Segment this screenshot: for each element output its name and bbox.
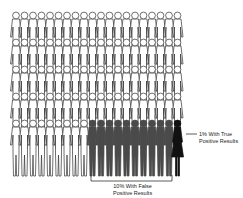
- person-icon: [147, 120, 158, 176]
- false-positive-label: 10% With False Positive Results: [113, 183, 152, 196]
- person-icon: [138, 120, 149, 176]
- person-icon: [130, 120, 141, 176]
- person-icon: [62, 120, 73, 176]
- person-icon: [79, 120, 90, 176]
- person-icon: [36, 120, 47, 176]
- person-icon: [172, 120, 184, 176]
- person-icon: [104, 120, 115, 176]
- person-icon: [19, 120, 30, 176]
- person-icon: [28, 120, 39, 176]
- person-icon: [121, 120, 132, 176]
- person-icon: [96, 120, 107, 176]
- person-icon: [70, 120, 81, 176]
- person-icon: [45, 120, 56, 176]
- true-positive-label: 1% With True Positive Results: [199, 131, 238, 144]
- person-icon: [53, 120, 64, 176]
- person-icon: [11, 120, 22, 176]
- false-positive-label-line1: 10% With False: [113, 183, 152, 190]
- false-positive-label-line2: Positive Results: [113, 190, 152, 197]
- person-icon: [113, 120, 124, 176]
- person-icon: [155, 120, 166, 176]
- population-pictogram: [0, 0, 243, 198]
- person-icon: [87, 120, 98, 176]
- true-positive-label-line2: Positive Results: [199, 138, 238, 145]
